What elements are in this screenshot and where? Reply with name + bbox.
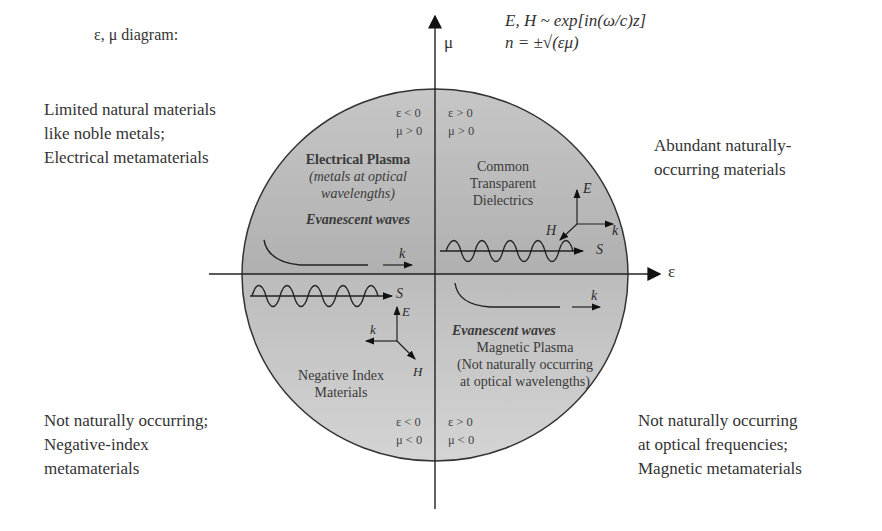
q2-name: Electrical Plasma <box>286 151 430 168</box>
sign-mu: μ < 0 <box>396 431 422 449</box>
sign-mu: μ > 0 <box>396 122 422 140</box>
q4-subtitle: (Not naturally occurring <box>440 356 610 373</box>
sign-epsilon: ε > 0 <box>448 413 474 431</box>
equation-refractive-index: n = ±√(εμ) <box>505 32 579 54</box>
q3-signs: ε < 0 μ < 0 <box>396 413 422 449</box>
note-line: Magnetic metamaterials <box>638 457 802 481</box>
note-line: Electrical metamaterials <box>44 146 216 170</box>
q1-name-line: Dielectrics <box>448 192 558 209</box>
q1-h-label: H <box>546 223 556 239</box>
q3-e-label: E <box>402 304 410 320</box>
q2-wave-label: Evanescent waves <box>286 211 430 228</box>
q2-subtitle: wavelengths) <box>286 185 430 202</box>
q3-k-label: k <box>370 322 376 338</box>
q2-signs: ε < 0 μ > 0 <box>396 104 422 140</box>
q1-e-label: E <box>583 181 592 197</box>
sign-epsilon: ε < 0 <box>396 104 422 122</box>
note-top-left: Limited natural materials like noble met… <box>44 98 216 170</box>
q3-label: Negative Index Materials <box>286 367 396 401</box>
q3-name-line: Materials <box>286 384 396 401</box>
note-line: at optical frequencies; <box>638 433 802 457</box>
mu-axis-label: μ <box>444 33 453 53</box>
note-line: Abundant naturally- <box>654 134 791 158</box>
note-line: metamaterials <box>44 457 208 481</box>
q4-wave-label: Evanescent waves <box>440 322 610 339</box>
q1-name-line: Common <box>448 158 558 175</box>
equation-field-form: E, H ~ exp[in(ω/c)z] <box>505 10 646 32</box>
sign-epsilon: ε < 0 <box>396 413 422 431</box>
sign-mu: μ > 0 <box>448 122 474 140</box>
q4-label: Evanescent waves Magnetic Plasma (Not na… <box>440 322 610 390</box>
q4-signs: ε > 0 μ < 0 <box>448 413 474 449</box>
diagram-title: ε, μ diagram: <box>94 26 178 44</box>
q1-signs: ε > 0 μ > 0 <box>448 104 474 140</box>
note-bottom-right: Not naturally occurring at optical frequ… <box>638 409 802 481</box>
q2-subtitle: (metals at optical <box>286 168 430 185</box>
q3-h-label: H <box>413 364 422 380</box>
q1-s-label: S <box>596 242 603 258</box>
note-bottom-left: Not naturally occurring; Negative-index … <box>44 409 208 481</box>
note-line: occurring materials <box>654 158 791 182</box>
q1-k-label: k <box>612 223 618 239</box>
q4-k-label: k <box>591 288 597 304</box>
note-top-right: Abundant naturally- occurring materials <box>654 134 791 182</box>
q1-name-line: Transparent <box>448 175 558 192</box>
q4-name: Magnetic Plasma <box>440 339 610 356</box>
note-line: Limited natural materials <box>44 98 216 122</box>
epsilon-axis-label: ε <box>668 262 675 282</box>
sign-mu: μ < 0 <box>448 431 474 449</box>
q3-name-line: Negative Index <box>286 367 396 384</box>
q2-k-label: k <box>399 246 405 262</box>
note-line: Not naturally occurring <box>638 409 802 433</box>
note-line: Negative-index <box>44 433 208 457</box>
q4-subtitle: at optical wavelengths) <box>440 373 610 390</box>
note-line: like noble metals; <box>44 122 216 146</box>
note-line: Not naturally occurring; <box>44 409 208 433</box>
q2-label: Electrical Plasma (metals at optical wav… <box>286 151 430 202</box>
q1-label: Common Transparent Dielectrics <box>448 158 558 209</box>
sign-epsilon: ε > 0 <box>448 104 474 122</box>
q3-s-label: S <box>396 286 403 302</box>
